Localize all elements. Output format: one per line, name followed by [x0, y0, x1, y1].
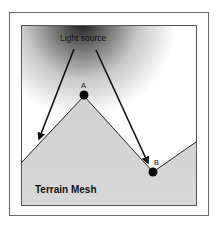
terrain-mesh-label: Terrain Mesh [35, 184, 97, 195]
point-a-marker [80, 91, 89, 100]
point-a-label: A [81, 81, 86, 90]
point-b-marker [149, 168, 158, 177]
terrain-lighting-diagram: Light source A B Terrain Mesh [0, 0, 219, 227]
light-source-label: Light source [60, 33, 107, 43]
point-b-label: B [154, 158, 159, 167]
